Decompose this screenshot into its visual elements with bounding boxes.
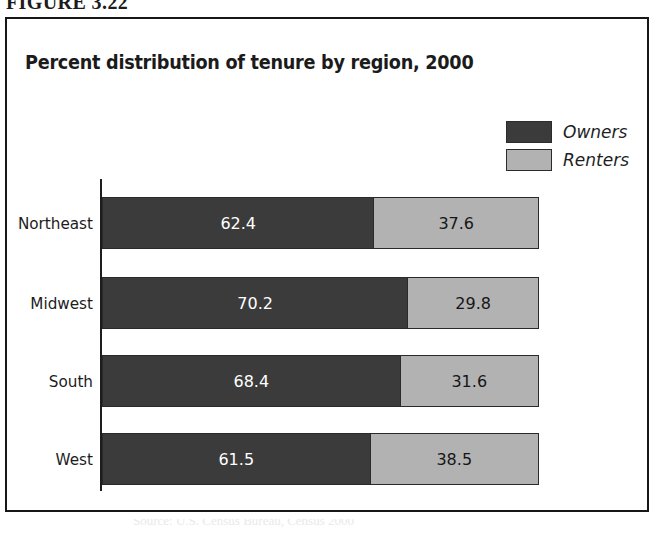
bar-segment-renters: 38.5 xyxy=(371,434,538,484)
figure-number-strip: FIGURE 3.22 xyxy=(0,0,666,17)
bar-row: Midwest 70.2 29.8 xyxy=(7,277,651,329)
plot-area: Northeast 62.4 37.6 Midwest 70.2 29.8 So… xyxy=(7,171,651,501)
bar-segment-owners: 62.4 xyxy=(103,198,374,248)
stacked-bar-northeast: 62.4 37.6 xyxy=(102,197,539,249)
legend-swatch-owners xyxy=(506,121,552,143)
bar-segment-owners: 61.5 xyxy=(103,434,371,484)
bar-segment-renters: 29.8 xyxy=(408,278,538,328)
bar-segment-owners: 70.2 xyxy=(103,278,408,328)
legend-item-owners: Owners xyxy=(506,119,656,144)
legend-item-renters: Renters xyxy=(506,147,656,172)
bar-row: South 68.4 31.6 xyxy=(7,355,651,407)
legend-label-owners: Owners xyxy=(563,122,627,142)
legend-swatch-renters xyxy=(506,149,552,171)
stacked-bar-south: 68.4 31.6 xyxy=(102,355,539,407)
category-label-northeast: Northeast xyxy=(11,197,93,249)
category-label-west: West xyxy=(11,433,93,485)
bar-row: West 61.5 38.5 xyxy=(7,433,651,485)
source-caption: Source: U.S. Census Bureau, Census 2000 xyxy=(0,519,666,537)
figure-panel: Percent distribution of tenure by region… xyxy=(5,17,649,512)
legend-label-renters: Renters xyxy=(563,150,629,170)
chart-title: Percent distribution of tenure by region… xyxy=(25,51,473,73)
bar-segment-owners: 68.4 xyxy=(103,356,401,406)
source-caption-text: Source: U.S. Census Bureau, Census 2000 xyxy=(133,519,354,529)
figure-number-label: FIGURE 3.22 xyxy=(6,0,128,14)
stacked-bar-west: 61.5 38.5 xyxy=(102,433,539,485)
stacked-bar-midwest: 70.2 29.8 xyxy=(102,277,539,329)
bar-segment-renters: 37.6 xyxy=(374,198,538,248)
bar-row: Northeast 62.4 37.6 xyxy=(7,197,651,249)
category-label-south: South xyxy=(11,355,93,407)
bar-segment-renters: 31.6 xyxy=(401,356,538,406)
chart-legend: Owners Renters xyxy=(506,119,656,175)
category-label-midwest: Midwest xyxy=(11,277,93,329)
